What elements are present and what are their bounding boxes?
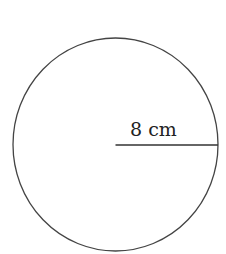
radius-label: 8 cm bbox=[130, 118, 177, 140]
circle-diagram: 8 cm bbox=[0, 0, 226, 254]
